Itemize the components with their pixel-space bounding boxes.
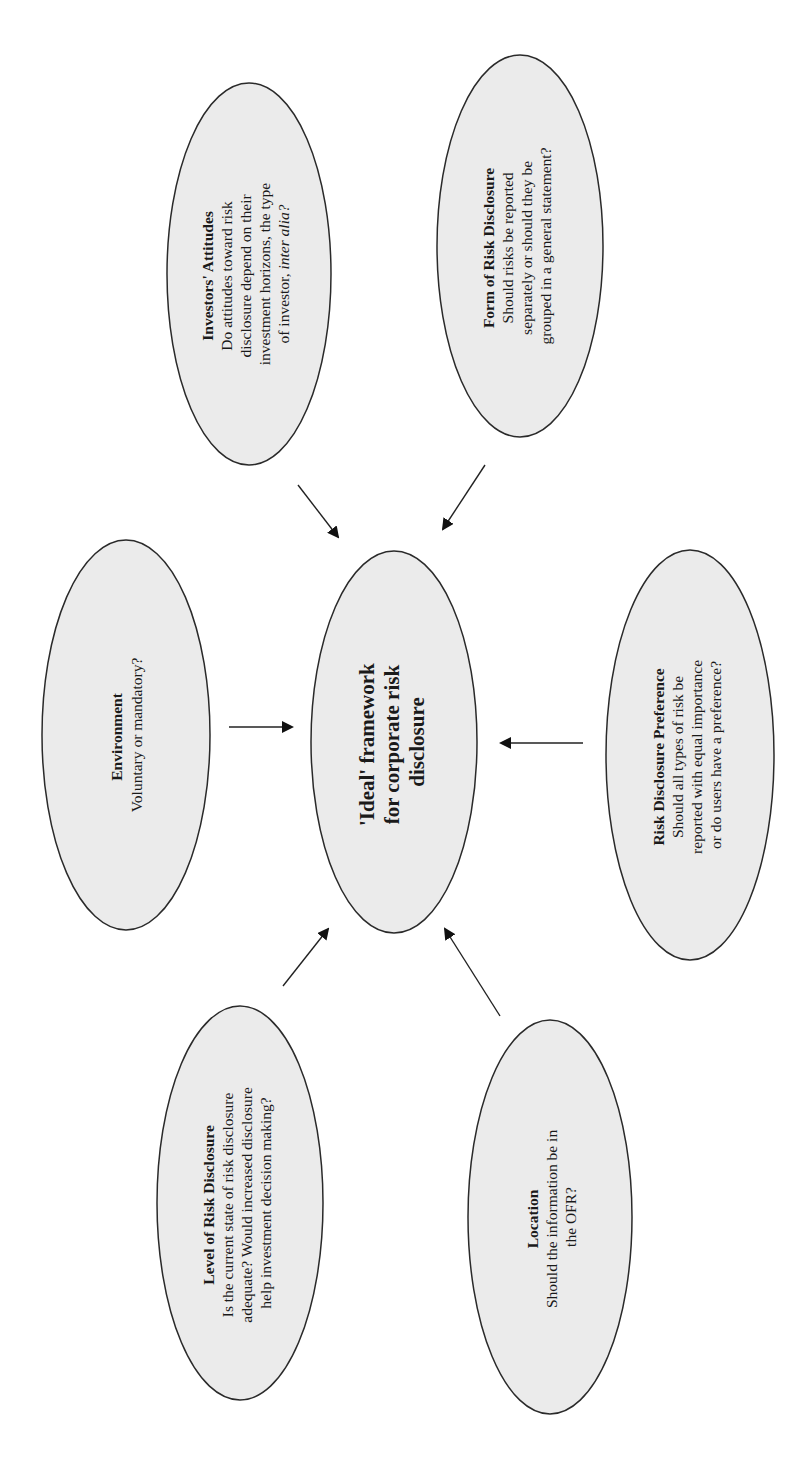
arrow-form-to-center (443, 465, 485, 529)
arrow-level-to-center (283, 929, 328, 986)
node-title: Location (524, 1189, 541, 1248)
arrow-investors-to-center (298, 485, 338, 537)
node-title: Form of Risk Disclosure (480, 168, 497, 328)
node-investors-attitudes: Investors' Attitudes Do attitudes toward… (167, 83, 331, 465)
node-line: grouped in a general statement? (537, 147, 554, 344)
node-line: Should the information be in (543, 1130, 560, 1308)
svg-text:of investor, inter alia?: of investor, inter alia? (275, 204, 292, 343)
node-risk-disclosure-preference: Risk Disclosure Preference Should all ty… (606, 550, 774, 960)
center-line: disclosure (405, 697, 429, 786)
node-line: Is the current state of risk disclosure (219, 1092, 236, 1317)
node-level-of-risk-disclosure: Level of Risk Disclosure Is the current … (157, 1006, 323, 1400)
node-line: of investor, (275, 270, 292, 344)
node-line-italic: inter alia? (275, 204, 292, 269)
node-line: investment horizons, the type (256, 183, 273, 366)
node-line: disclosure depend on their (237, 194, 254, 358)
node-location: Location Should the information be in th… (468, 1020, 632, 1414)
node-form-of-risk-disclosure: Form of Risk Disclosure Should risks be … (437, 55, 603, 437)
node-line: or do users have a preference? (707, 661, 724, 849)
node-line: separately or should they be (518, 161, 535, 335)
arrow-location-to-center (445, 929, 500, 1016)
node-line: Voluntary or mandatory? (128, 658, 145, 813)
node-center-ideal-framework: 'Ideal' framework for corporate risk dis… (311, 551, 477, 933)
node-title: Investors' Attitudes (199, 211, 216, 341)
node-title: Risk Disclosure Preference (650, 668, 667, 845)
framework-diagram: Investors' Attitudes Do attitudes toward… (0, 0, 799, 1478)
node-line: Do attitudes toward risk (218, 201, 235, 351)
ellipse-shape (42, 540, 210, 930)
node-line: Should risks be reported (499, 172, 516, 323)
node-line: the OFR? (562, 1187, 579, 1247)
node-line: help investment decision making? (257, 1097, 274, 1308)
node-line: adequate? Would increased disclosure (238, 1087, 255, 1323)
center-line: 'Ideal' framework (355, 663, 379, 826)
node-environment: Environment Voluntary or mandatory? (42, 540, 210, 930)
node-title: Environment (108, 692, 125, 780)
node-title: Level of Risk Disclosure (200, 1125, 217, 1285)
center-line: for corporate risk (380, 665, 404, 825)
node-line: reported with equal importance (688, 660, 705, 854)
node-line: Should all types of risk be (669, 676, 686, 838)
